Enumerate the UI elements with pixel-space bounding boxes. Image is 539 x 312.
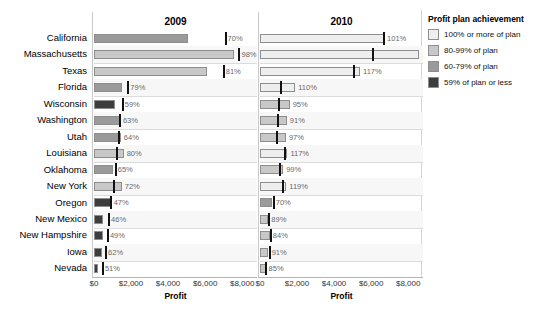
target-marker [353, 65, 355, 78]
percent-label: 101% [387, 34, 406, 43]
percent-label: 51% [105, 264, 120, 273]
target-marker [118, 131, 120, 144]
bar [94, 116, 120, 125]
bar [260, 231, 270, 240]
target-marker [269, 246, 271, 259]
percent-label: 91% [272, 248, 287, 257]
target-marker [105, 246, 107, 259]
row-label: Utah [0, 129, 92, 145]
percent-label: 119% [289, 182, 308, 191]
bar [94, 264, 98, 273]
percent-label: 117% [363, 67, 382, 76]
legend-item[interactable]: 60-79% of plan [428, 61, 539, 72]
bullet-chart: CaliforniaMassachusettsTexasFloridaWisco… [0, 0, 539, 312]
target-marker [119, 114, 121, 127]
legend-item-label: 80-99% of plan [444, 46, 498, 55]
x-tick-label: $0 [90, 279, 99, 288]
target-marker [107, 229, 109, 242]
percent-label: 64% [124, 133, 139, 142]
bar [260, 67, 360, 76]
x-tick-label: $4,000 [156, 279, 180, 288]
row-label: Massachusetts [0, 46, 92, 62]
target-marker [273, 196, 275, 209]
grid-row [260, 162, 423, 179]
row-label: Wisconsin [0, 96, 92, 112]
x-tick-label: $6,000 [193, 279, 217, 288]
x-tick-label: $8,000 [230, 279, 254, 288]
target-marker [113, 180, 115, 193]
percent-label: 110% [298, 83, 317, 92]
percent-label: 70% [276, 198, 291, 207]
target-marker [110, 196, 112, 209]
target-marker [122, 98, 124, 111]
legend-item-label: 60-79% of plan [444, 62, 498, 71]
grid-row [94, 96, 257, 113]
percent-label: 81% [226, 67, 241, 76]
plot-area-2009: 70%98%81%79%59%63%64%80%65%72%47%46%49%6… [94, 30, 257, 277]
percent-label: 89% [271, 215, 286, 224]
target-marker [108, 213, 110, 226]
legend-item[interactable]: 100% or more of plan [428, 29, 539, 40]
grid-row [260, 261, 423, 277]
bar [94, 67, 207, 76]
percent-label: 117% [290, 149, 309, 158]
row-label: Texas [0, 63, 92, 79]
x-axis-title: Profit [260, 291, 423, 301]
target-marker [115, 163, 117, 176]
x-tick-label: $8,000 [396, 279, 420, 288]
legend-item[interactable]: 80-99% of plan [428, 45, 539, 56]
bar [94, 198, 111, 207]
target-marker [282, 180, 284, 193]
legend-swatch-icon [428, 77, 439, 88]
row-label: Oregon [0, 195, 92, 211]
row-label: Iowa [0, 244, 92, 260]
x-axis-title: Profit [94, 291, 257, 301]
percent-label: 65% [118, 165, 133, 174]
row-label: California [0, 30, 92, 46]
percent-label: 72% [125, 182, 140, 191]
target-marker [284, 147, 286, 160]
target-marker [116, 147, 118, 160]
target-marker [280, 81, 282, 94]
target-marker [278, 98, 280, 111]
x-tick-label: $4,000 [322, 279, 346, 288]
legend-title: Profit plan achievement [428, 14, 539, 24]
legend-items: 100% or more of plan80-99% of plan60-79%… [428, 29, 539, 88]
legend-item-label: 59% of plan or less [444, 78, 512, 87]
bar [260, 133, 286, 142]
plot-area-2010: 101%142%117%110%95%91%97%117%99%119%70%8… [260, 30, 423, 277]
bar [94, 215, 103, 224]
target-marker [223, 65, 225, 78]
bar [94, 149, 124, 158]
row-label: New Mexico [0, 211, 92, 227]
percent-label: 70% [228, 34, 243, 43]
percent-label: 59% [125, 100, 140, 109]
bar [94, 182, 122, 191]
bar [260, 248, 268, 257]
panel-header-2010: 2010 [260, 14, 423, 30]
percent-label: 79% [130, 83, 145, 92]
percent-label: 84% [273, 231, 288, 240]
row-label: Louisiana [0, 145, 92, 161]
target-marker [279, 163, 281, 176]
panel-divider [92, 12, 93, 278]
percent-label: 142% [422, 50, 423, 59]
legend-item[interactable]: 59% of plan or less [428, 77, 539, 88]
legend-swatch-icon [428, 45, 439, 56]
legend-swatch-icon [428, 29, 439, 40]
legend-item-label: 100% or more of plan [444, 30, 521, 39]
target-marker [372, 48, 374, 61]
row-label: Nevada [0, 260, 92, 276]
bar [94, 83, 122, 92]
row-label: Washington [0, 112, 92, 128]
target-marker [277, 114, 279, 127]
panel-divider [258, 12, 259, 278]
bar [260, 116, 287, 125]
row-label-column: CaliforniaMassachusettsTexasFloridaWisco… [0, 30, 92, 277]
bar [94, 34, 188, 43]
bar [94, 133, 121, 142]
percent-label: 62% [108, 248, 123, 257]
percent-label: 49% [110, 231, 125, 240]
percent-label: 46% [111, 215, 126, 224]
percent-label: 91% [290, 116, 305, 125]
